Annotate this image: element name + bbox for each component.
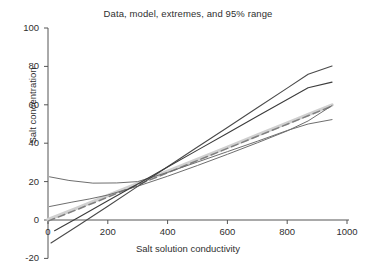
x-tick-label: 400	[148, 226, 188, 237]
x-tick-label: 200	[88, 226, 128, 237]
series-line-extreme-high	[51, 66, 332, 243]
x-tick-label: 0	[28, 226, 68, 237]
x-tick-label: 1000	[327, 226, 367, 237]
series-line-fitted-model	[48, 105, 332, 220]
y-tick-label: 100	[9, 22, 39, 33]
y-tick-label: 0	[9, 214, 39, 225]
x-tick-label: 800	[267, 226, 307, 237]
x-tick-label: 600	[207, 226, 247, 237]
series-line-extreme-low	[55, 82, 332, 231]
y-tick-label: 40	[9, 137, 39, 148]
y-tick-label: 80	[9, 60, 39, 71]
y-tick-label: 20	[9, 176, 39, 187]
y-tick-label: 60	[9, 99, 39, 110]
chart-figure: Data, model, extremes, and 95% range Sal…	[0, 0, 376, 275]
y-tick-label: -20	[9, 252, 39, 263]
